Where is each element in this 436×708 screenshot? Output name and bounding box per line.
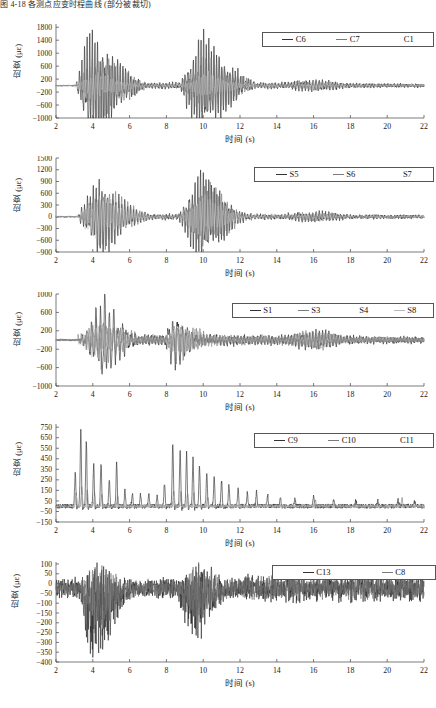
x-tick-label: 18	[347, 390, 355, 399]
legend-swatch-C10	[328, 440, 339, 441]
legend-panel-2[interactable]: S5S6S7	[254, 167, 434, 182]
x-tick-label: 2	[54, 256, 58, 265]
legend-label-S7: S7	[403, 170, 412, 179]
legend-swatch-S3	[298, 310, 309, 311]
legend-swatch-S8	[394, 310, 405, 311]
legend-label-S1: S1	[263, 306, 272, 315]
legend-swatch-S4	[346, 310, 357, 311]
legend-item-C11[interactable]: C11	[386, 436, 413, 445]
y-tick-label: −200	[36, 618, 52, 627]
legend-panel-1[interactable]: C6C7C1	[262, 32, 434, 47]
y-tick-label: 1800	[37, 23, 52, 32]
x-tick-label: 2	[54, 122, 58, 131]
legend-item-C7[interactable]: C7	[336, 35, 359, 44]
y-tick-label: 150	[41, 486, 53, 495]
legend-label-C9: C9	[288, 436, 298, 445]
x-tick-label: 16	[310, 122, 318, 131]
x-tick-label: 16	[310, 526, 318, 535]
x-tick-label: 16	[310, 390, 318, 399]
legend-panel-5[interactable]: C13C8	[272, 565, 436, 580]
y-tick-label: 200	[41, 326, 53, 335]
x-tick-label: 12	[236, 122, 244, 131]
x-tick-label: 12	[236, 256, 244, 265]
y-tick-label: 100	[41, 560, 53, 569]
y-tick-label: 1200	[37, 165, 52, 174]
x-tick-label: 6	[128, 526, 132, 535]
legend-item-S6[interactable]: S6	[333, 170, 355, 179]
legend-item-S7[interactable]: S7	[389, 170, 411, 179]
x-tick-label: 4	[91, 390, 95, 399]
x-tick-label: 22	[420, 390, 428, 399]
legend-item-C8[interactable]: C8	[382, 568, 405, 577]
legend-item-C9[interactable]: C9	[274, 436, 297, 445]
legend-item-C1[interactable]: C1	[390, 35, 413, 44]
legend-item-S5[interactable]: S5	[276, 170, 298, 179]
legend-item-S4[interactable]: S4	[346, 306, 368, 315]
chart-panel-5: 应变 (με)时间 (s)100500−50−100−150−200−250−3…	[0, 550, 436, 690]
legend-panel-3[interactable]: S1S3S4S8	[232, 303, 434, 318]
y-tick-label: 50	[44, 569, 52, 578]
x-tick-label: 14	[273, 390, 281, 399]
chart-panel-inner: 应变 (με)时间 (s)180014001000600200−200−600−…	[0, 14, 436, 142]
y-tick-label: 1000	[37, 292, 52, 299]
y-tick-label: 450	[41, 454, 53, 463]
x-tick-label: 4	[91, 256, 95, 265]
y-tick-label: 650	[41, 433, 53, 442]
x-tick-label: 22	[420, 122, 428, 131]
series-line-C11	[56, 495, 424, 508]
y-tick-label: 50	[44, 497, 52, 506]
chart-panel-inner: 应变 (με)时间 (s)1000600200−200−600−10002468…	[0, 282, 436, 410]
legend-item-C10[interactable]: C10	[328, 436, 356, 445]
legend-swatch-C6	[282, 39, 293, 40]
x-tick-label: 16	[310, 666, 318, 675]
x-tick-label: 4	[91, 122, 95, 131]
legend-label-C13: C13	[316, 568, 330, 577]
legend-label-C1: C1	[404, 35, 414, 44]
x-tick-label: 6	[128, 390, 132, 399]
y-tick-label: 1400	[37, 36, 52, 45]
y-tick-label: 1500	[37, 156, 52, 163]
legend-item-S8[interactable]: S8	[394, 306, 416, 315]
y-tick-label: 600	[41, 189, 53, 198]
legend-swatch-C8	[382, 572, 393, 573]
y-tick-label: −50	[40, 507, 52, 516]
legend-item-S3[interactable]: S3	[298, 306, 320, 315]
legend-label-C6: C6	[296, 35, 306, 44]
y-tick-label: 600	[41, 62, 53, 71]
legend-label-C8: C8	[395, 568, 405, 577]
x-tick-label: 10	[199, 256, 207, 265]
legend-swatch-C1	[390, 39, 401, 40]
chart-panel-4: 应变 (με)时间 (s)75065055045035025015050−50−…	[0, 414, 436, 546]
legend-item-C6[interactable]: C6	[282, 35, 305, 44]
legend-label-S8: S8	[407, 306, 416, 315]
legend-label-S3: S3	[311, 306, 320, 315]
legend-label-S5: S5	[290, 170, 299, 179]
y-tick-label: 300	[41, 201, 53, 210]
x-tick-label: 20	[383, 390, 391, 399]
y-tick-label: −600	[36, 363, 52, 372]
x-tick-label: 14	[273, 122, 281, 131]
y-tick-label: 900	[41, 177, 53, 186]
x-tick-label: 12	[236, 526, 244, 535]
legend-label-S6: S6	[346, 170, 355, 179]
legend-swatch-S7	[389, 174, 400, 175]
y-tick-label: −300	[36, 638, 52, 647]
y-tick-label: −300	[36, 224, 52, 233]
x-tick-label: 8	[164, 666, 168, 675]
legend-item-S1[interactable]: S1	[250, 306, 272, 315]
legend-item-C13[interactable]: C13	[303, 568, 331, 577]
x-tick-label: 8	[164, 256, 168, 265]
y-tick-label: 350	[41, 465, 53, 474]
x-tick-label: 18	[347, 666, 355, 675]
figure-page: 图 4-18 各测点应变时程曲线 (部分被裁切) 应变 (με)时间 (s)18…	[0, 0, 436, 708]
chart-panel-2: 应变 (με)时间 (s)150012009006003000−300−600−…	[0, 148, 436, 276]
x-tick-label: 4	[91, 526, 95, 535]
y-tick-label: 200	[41, 75, 53, 84]
legend-panel-4[interactable]: C9C10C11	[254, 433, 434, 448]
x-tick-label: 10	[199, 390, 207, 399]
x-tick-label: 6	[128, 122, 132, 131]
x-tick-label: 20	[383, 526, 391, 535]
x-tick-label: 2	[54, 666, 58, 675]
y-tick-label: −200	[36, 345, 52, 354]
legend-swatch-S5	[276, 174, 287, 175]
